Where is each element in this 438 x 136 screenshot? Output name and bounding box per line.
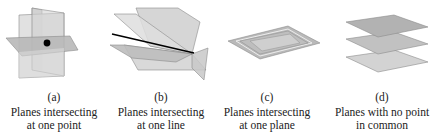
caption-line-2: in common: [326, 119, 438, 131]
panel-c: (c) Planes intersecting at one plane: [212, 0, 322, 136]
caption-line-2: at one point: [0, 119, 108, 131]
coincident-planes-diagram: [212, 0, 322, 88]
planes-meeting-at-point-diagram: [0, 0, 108, 88]
panel-label: (c): [212, 91, 322, 103]
panel-b: (b) Planes intersecting at one line: [106, 0, 216, 136]
caption-line-1: Planes with no point: [326, 106, 438, 118]
caption-line-1: Planes intersecting: [106, 106, 216, 118]
panel-a: (a) Planes intersecting at one point: [0, 0, 108, 136]
panel-label: (a): [0, 91, 108, 103]
panel-label: (d): [326, 91, 438, 103]
intersection-point: [44, 40, 51, 47]
panel-label: (b): [106, 91, 216, 103]
caption-line-2: at one plane: [212, 119, 322, 131]
caption-line-1: Planes intersecting: [212, 106, 322, 118]
plane-bottom: [346, 50, 428, 72]
parallel-planes-diagram: [326, 0, 438, 88]
caption-line-1: Planes intersecting: [0, 106, 108, 118]
caption-line-2: at one line: [106, 119, 216, 131]
plane-top: [346, 15, 428, 37]
planes-meeting-along-line-diagram: [106, 0, 216, 88]
panel-d: (d) Planes with no point in common: [326, 0, 438, 136]
